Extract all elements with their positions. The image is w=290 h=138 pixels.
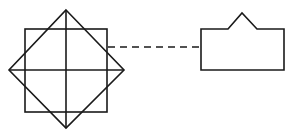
rotated-squares-figure <box>9 10 124 128</box>
diagram-canvas <box>0 0 290 138</box>
house-shape <box>201 13 284 70</box>
